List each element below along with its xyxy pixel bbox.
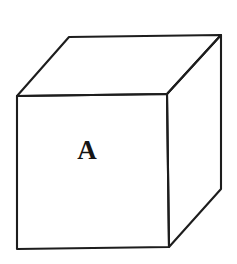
figure-canvas: A <box>0 0 237 264</box>
cube-front-face-label: A <box>77 135 97 165</box>
cube-face-front-fill <box>17 94 169 249</box>
cube-diagram: A <box>0 0 237 264</box>
